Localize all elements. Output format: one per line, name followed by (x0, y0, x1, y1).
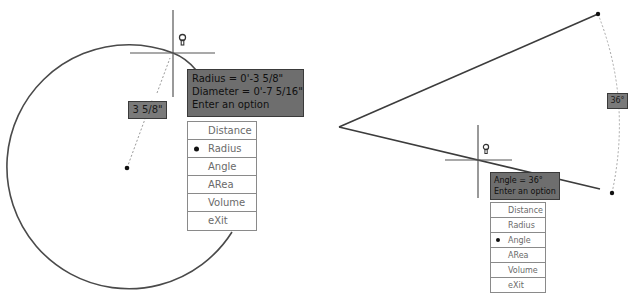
tooltip-line-diameter: Diameter = 0'-7 5/16" (192, 85, 299, 98)
menu-item-label: Angle (208, 161, 236, 172)
measure-options-menu: Distance Radius Angle ARea Volume eXit (490, 202, 546, 293)
menu-item-label: Angle (508, 236, 531, 245)
tooltip-line-radius: Radius = 0'-3 5/8" (192, 72, 299, 85)
angle-tooltip: Angle = 36° Enter an option (490, 172, 560, 200)
menu-item-label: Volume (508, 266, 538, 275)
menu-item-label: ARea (208, 179, 234, 190)
menu-item-angle[interactable]: Angle (188, 158, 256, 176)
menu-item-label: Radius (208, 143, 242, 154)
lightbulb-hint-icon (483, 144, 488, 153)
menu-item-exit[interactable]: eXit (491, 278, 545, 293)
menu-item-distance[interactable]: Distance (491, 203, 545, 218)
angle-endpoint-bottom (610, 191, 614, 195)
tooltip-line-angle: Angle = 36° (494, 175, 556, 186)
menu-item-label: eXit (508, 281, 524, 290)
measure-options-menu: Distance Radius Angle ARea Volume eXit (187, 121, 257, 231)
lightbulb-hint-icon (180, 35, 186, 46)
menu-item-label: Radius (508, 221, 535, 230)
angle-dimension-label: 36° (607, 93, 628, 109)
menu-item-radius[interactable]: Radius (491, 218, 545, 233)
circle-center-point (125, 166, 130, 171)
menu-item-radius[interactable]: Radius (188, 140, 256, 158)
radius-dimension-label: 3 5/8" (128, 101, 167, 119)
angle-endpoint-top (596, 12, 600, 16)
menu-item-distance[interactable]: Distance (188, 122, 256, 140)
tooltip-line-prompt: Enter an option (494, 186, 556, 197)
angle-geometry (339, 14, 600, 189)
menu-item-label: Distance (208, 125, 252, 136)
menu-item-angle[interactable]: Angle (491, 233, 545, 248)
menu-item-area[interactable]: ARea (491, 248, 545, 263)
selected-bullet-icon (496, 238, 500, 242)
menu-item-label: Volume (208, 197, 245, 208)
menu-item-label: ARea (508, 251, 529, 260)
menu-item-label: Distance (508, 206, 543, 215)
menu-item-volume[interactable]: Volume (491, 263, 545, 278)
tooltip-line-prompt: Enter an option (192, 98, 299, 111)
menu-item-exit[interactable]: eXit (188, 212, 256, 230)
radius-tooltip: Radius = 0'-3 5/8" Diameter = 0'-7 5/16"… (187, 69, 304, 117)
menu-item-volume[interactable]: Volume (188, 194, 256, 212)
selected-bullet-icon (194, 146, 199, 151)
menu-item-area[interactable]: ARea (188, 176, 256, 194)
menu-item-label: eXit (208, 215, 228, 226)
